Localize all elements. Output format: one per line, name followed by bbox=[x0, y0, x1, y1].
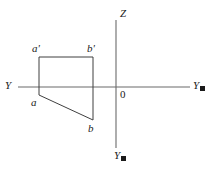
label-a: a bbox=[31, 97, 37, 108]
label-z-axis: Z bbox=[120, 8, 126, 19]
label-y-right: Y bbox=[193, 80, 205, 91]
label-y-left: Y bbox=[5, 80, 11, 91]
subscript-box-icon-bottom bbox=[121, 156, 126, 161]
label-b: b bbox=[88, 123, 94, 134]
projection-diagram: Z 0 Y Y Y a' b' a b bbox=[0, 0, 217, 176]
label-origin: 0 bbox=[120, 89, 126, 100]
diagram-canvas bbox=[0, 0, 217, 176]
edge-b-a bbox=[39, 95, 93, 120]
label-b-prime: b' bbox=[87, 43, 95, 54]
label-y-bottom-text: Y bbox=[114, 149, 120, 161]
label-y-bottom: Y bbox=[114, 150, 126, 161]
label-a-prime: a' bbox=[32, 43, 40, 54]
label-y-right-text: Y bbox=[193, 79, 199, 91]
subscript-box-icon bbox=[200, 86, 205, 91]
